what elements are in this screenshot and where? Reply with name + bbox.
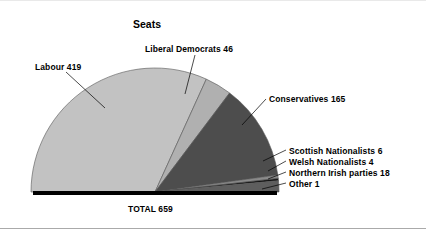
seats-semicircle-chart-figure: Seats Labour 419 Liberal Democrats 46 Co…	[0, 0, 426, 233]
slice-label-conservatives: Conservatives 165	[269, 94, 345, 104]
slice-label-liberal-democrats: Liberal Democrats 46	[145, 44, 233, 54]
slice-label-labour: Labour 419	[35, 62, 81, 72]
bottom-divider-rule	[0, 228, 426, 229]
semicircle-pie-plot	[0, 0, 426, 233]
slice-label-other: Other 1	[289, 179, 319, 189]
baseline-bar	[33, 191, 277, 195]
pie-slice-group	[31, 68, 279, 192]
slice-label-welsh-nationalists: Welsh Nationalists 4	[289, 157, 374, 167]
total-label: TOTAL 659	[128, 204, 173, 214]
slice-label-scottish-nationalists: Scottish Nationalists 6	[289, 146, 382, 156]
slice-label-northern-irish-parties: Northern Irish parties 18	[289, 168, 390, 178]
